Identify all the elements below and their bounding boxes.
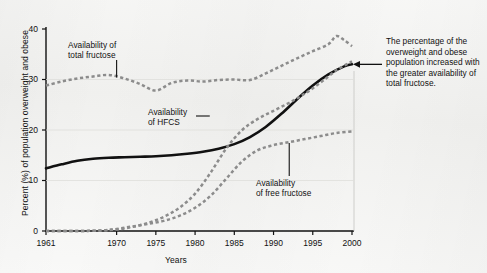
- annotation-total-fructose: Availability of total fructose: [68, 40, 116, 61]
- y-tick-label: 40: [20, 24, 38, 34]
- x-tick-label: 1961: [29, 238, 63, 248]
- x-tick-label: 1970: [100, 238, 134, 248]
- x-tick-label: 1975: [139, 238, 173, 248]
- y-tick-label: 0: [20, 226, 38, 236]
- y-tick-label: 20: [20, 125, 38, 135]
- x-tick-label: 2000: [335, 238, 369, 248]
- x-tick-label: 1980: [178, 238, 212, 248]
- x-tick-label: 1990: [257, 238, 291, 248]
- x-axis-title: Years: [0, 255, 352, 265]
- annotation-side-note: The percentage of the overweight and obe…: [386, 36, 484, 89]
- annotation-hfcs: Availability of HFCS: [148, 107, 187, 128]
- y-axis-title: Percent (%) of population overweight and…: [20, 8, 30, 238]
- y-tick-label: 30: [20, 74, 38, 84]
- x-tick-label: 1995: [296, 238, 330, 248]
- side-note-arrow-head: [353, 61, 360, 68]
- y-tick-label: 10: [20, 175, 38, 185]
- annotation-free-fructose: Availability of free fructose: [256, 178, 311, 199]
- x-tick-label: 1985: [217, 238, 251, 248]
- chart-figure: Percent (%) of population overweight and…: [0, 0, 487, 273]
